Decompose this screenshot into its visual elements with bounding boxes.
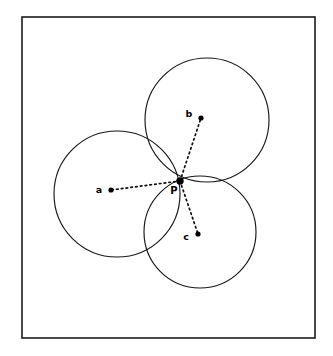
figure-container: a b c P (0, 0, 333, 356)
circle-b (145, 58, 269, 182)
point-dot-a (108, 187, 113, 192)
point-dot-c (195, 231, 200, 236)
diagram-frame (22, 17, 315, 338)
point-label-c: c (183, 231, 189, 242)
point-dot-b (198, 115, 203, 120)
point-dot-p (177, 178, 183, 184)
connector-p-to-c (180, 181, 198, 234)
geometry-diagram: a b c P (0, 0, 333, 356)
circle-c (144, 176, 256, 288)
point-label-b: b (186, 108, 193, 119)
connector-p-to-b (180, 118, 201, 181)
point-label-a: a (96, 184, 102, 195)
circle-a (54, 131, 180, 257)
point-label-p: P (170, 185, 177, 196)
